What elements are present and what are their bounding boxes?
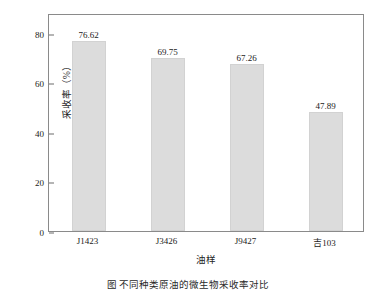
y-tick-label: 60 [35,79,44,89]
bar-value-label: 67.26 [236,53,256,63]
bar-value-label: 76.62 [78,30,98,40]
x-tick-label: 吉103 [313,236,336,249]
y-tick-mark [49,34,54,35]
x-axis-title: 油样 [48,252,364,266]
bar [72,41,106,231]
bar-value-label: 47.89 [315,101,335,111]
bar [309,112,343,231]
y-tick-label: 80 [35,30,44,40]
y-tick-mark [49,133,54,134]
y-tick-mark [49,233,54,234]
bar [230,64,264,231]
plot-area: 采收率（%） 020406080 76.6269.7567.2647.89 [48,14,364,232]
y-tick-label: 40 [35,129,44,139]
y-tick-label: 0 [40,228,45,238]
y-tick-mark [49,84,54,85]
x-tick-label: J3426 [156,236,178,246]
x-tick-label: J9427 [235,236,257,246]
bar-value-label: 69.75 [157,47,177,57]
x-tick-label: J1423 [77,236,99,246]
bar [151,58,185,231]
y-tick-mark [49,183,54,184]
y-tick-label: 20 [35,178,44,188]
figure-caption: 图 不同种类原油的微生物采收率对比 [0,277,376,291]
